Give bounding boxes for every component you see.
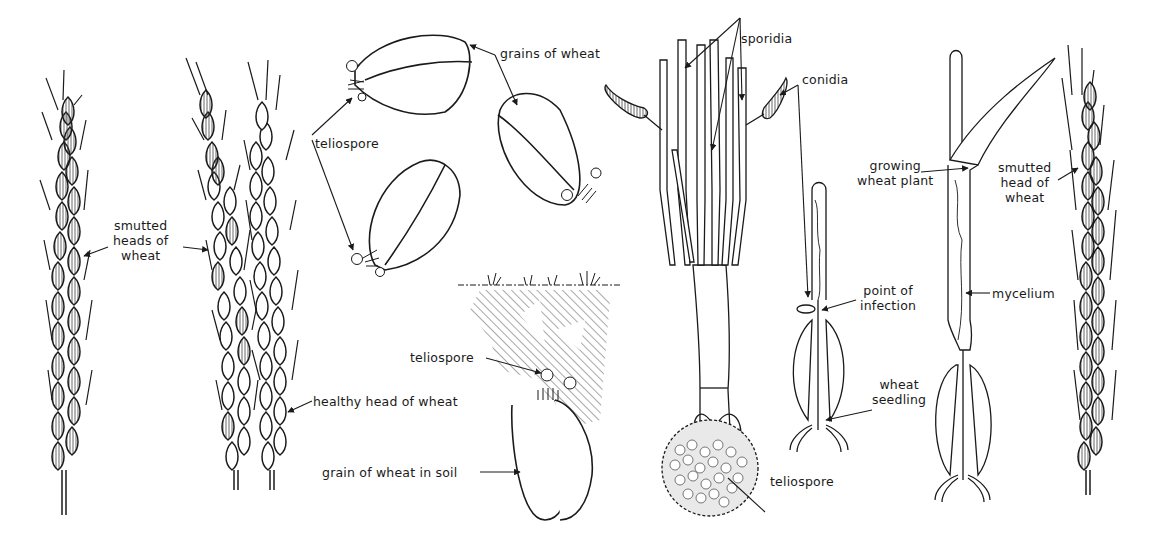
label-smutted-head-right: smutted head of wheat — [998, 160, 1051, 205]
label-smutted-heads: smutted heads of wheat — [113, 218, 168, 263]
label-wheat-seedling: wheat seedling — [872, 377, 926, 407]
grain-right — [498, 94, 601, 206]
diagram-artwork — [0, 0, 1161, 547]
label-growing-wheat-plant: growing wheat plant — [857, 158, 933, 188]
label-mycelium: mycelium — [992, 286, 1055, 301]
smutted-head-center — [186, 58, 258, 490]
label-teliospore-bottom: teliospore — [770, 474, 834, 489]
label-point-of-infection: point of infection — [860, 283, 916, 313]
growing-plant — [921, 51, 1055, 503]
healthy-head — [244, 60, 298, 490]
label-teliospore-soil: teliospore — [410, 350, 474, 365]
grain-in-soil — [458, 271, 620, 520]
grains-of-wheat — [347, 35, 602, 276]
germinating-teliospore — [605, 18, 808, 516]
label-grain-in-soil: grain of wheat in soil — [322, 465, 457, 480]
wheat-smut-diagram: smutted heads of wheat healthy head of w… — [0, 0, 1161, 547]
wheat-seedling — [790, 183, 872, 453]
grain-top — [347, 35, 473, 114]
label-healthy-head: healthy head of wheat — [313, 394, 458, 409]
label-teliospore-top: teliospore — [315, 136, 379, 151]
label-grains-of-wheat: grains of wheat — [500, 46, 600, 61]
smutted-head-right — [1058, 45, 1116, 495]
label-conidia: conidia — [802, 72, 848, 87]
label-sporidia: sporidia — [741, 31, 792, 46]
smutted-head-left — [40, 70, 92, 515]
grain-bottom — [352, 160, 461, 276]
